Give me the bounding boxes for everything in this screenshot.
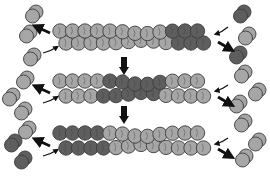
left-free-monomer — [17, 71, 35, 89]
down-arrow-icon — [119, 57, 129, 75]
dissociation-arrow-icon — [218, 42, 230, 49]
dissociation-arrow-icon — [218, 149, 230, 156]
right-free-monomer — [235, 65, 253, 83]
filament-subunit — [140, 77, 154, 91]
association-arrow-icon — [216, 138, 228, 144]
right-free-monomer — [239, 27, 257, 45]
right-free-monomer — [236, 149, 254, 167]
left-free-monomer — [15, 102, 33, 120]
filament-subunit — [190, 24, 204, 38]
association-arrow-icon — [43, 150, 57, 156]
filament-subunit — [115, 75, 129, 89]
filament-subunit — [140, 129, 154, 143]
association-arrow-icon — [43, 47, 57, 53]
right-free-monomer — [249, 83, 267, 101]
dissociation-arrow-icon — [37, 140, 50, 146]
left-free-monomer — [24, 48, 42, 66]
left-free-monomer — [26, 5, 44, 23]
filament-3 — [53, 126, 211, 155]
right-free-monomer — [230, 46, 248, 64]
left-free-monomer — [19, 121, 37, 139]
treadmilling-diagram — [0, 0, 270, 178]
right-free-monomer — [249, 133, 267, 151]
down-arrow-icon — [119, 106, 129, 124]
association-arrow-icon — [43, 97, 57, 103]
left-free-monomer — [20, 25, 38, 43]
left-free-monomer — [15, 151, 33, 169]
filament-subunit — [196, 89, 210, 103]
association-arrow-icon — [216, 27, 228, 34]
filament-1 — [53, 24, 211, 50]
filament-subunit — [190, 126, 204, 140]
right-free-monomer — [235, 114, 253, 132]
dissociation-arrow-icon — [37, 87, 50, 93]
left-free-monomer — [5, 134, 23, 152]
filament-subunit — [115, 127, 129, 141]
filament-2 — [53, 74, 211, 103]
association-arrow-icon — [216, 85, 228, 91]
right-free-monomer — [230, 95, 248, 113]
left-free-monomer — [3, 88, 21, 106]
right-free-monomer — [234, 5, 252, 23]
dissociation-arrow-icon — [218, 97, 230, 104]
filament-subunit — [196, 141, 210, 155]
filaments — [53, 24, 211, 155]
dissociation-arrow-icon — [37, 27, 50, 33]
filament-subunit — [190, 74, 204, 88]
